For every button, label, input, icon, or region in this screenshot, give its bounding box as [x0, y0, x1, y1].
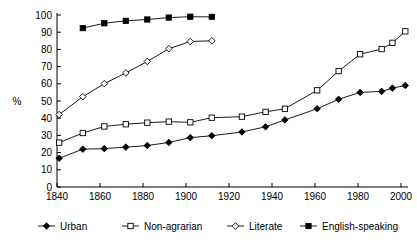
data-point-marker: [80, 130, 85, 135]
data-point-marker: [128, 223, 133, 228]
legend-item-english-speaking[interactable]: English-speaking: [300, 221, 398, 232]
y-axis-tick-label: 60: [41, 78, 53, 89]
y-axis-tick-label: 10: [41, 164, 53, 175]
data-point-marker: [166, 15, 171, 20]
data-point-marker: [357, 89, 364, 96]
data-point-marker: [378, 88, 385, 95]
data-point-marker: [166, 119, 171, 124]
x-axis-tick-label: 1860: [89, 191, 112, 202]
x-axis-tick-label: 1880: [132, 191, 155, 202]
data-point-marker: [262, 124, 269, 131]
x-axis-tick-label: 2000: [390, 191, 413, 202]
data-point-marker: [187, 38, 194, 45]
x-axis-tick-label: 1840: [46, 191, 69, 202]
data-point-marker: [145, 17, 150, 22]
data-point-marker: [43, 223, 50, 230]
x-axis: 184018601880190019201940196019802000: [46, 183, 413, 202]
y-axis-tick-label: 70: [41, 61, 53, 72]
y-axis-label: %: [13, 96, 22, 107]
data-point-marker: [123, 18, 128, 23]
y-axis-tick-label: 40: [41, 113, 53, 124]
data-point-marker: [239, 114, 244, 119]
legend-item-non-agrarian[interactable]: Non-agrarian: [122, 221, 202, 232]
legend-item-label: Non-agrarian: [144, 221, 202, 232]
data-point-marker: [263, 109, 268, 114]
series-literate: [56, 38, 215, 118]
data-point-marker: [187, 134, 194, 141]
y-axis: 0102030405060708090100: [35, 10, 61, 193]
data-point-marker: [188, 14, 193, 19]
series-english-speaking: [80, 14, 214, 31]
data-point-marker: [101, 145, 108, 152]
data-point-marker: [232, 223, 239, 230]
data-point-marker: [209, 115, 214, 120]
data-point-marker: [403, 29, 408, 34]
data-point-marker: [282, 106, 287, 111]
legend-item-urban[interactable]: Urban: [38, 221, 87, 232]
data-point-marker: [282, 117, 289, 124]
data-point-marker: [102, 124, 107, 129]
data-point-marker: [314, 88, 319, 93]
data-point-marker: [56, 140, 61, 145]
legend-item-label: English-speaking: [322, 221, 398, 232]
series-layer: [56, 14, 409, 162]
data-point-marker: [390, 40, 395, 45]
data-point-marker: [166, 139, 173, 146]
data-point-marker: [144, 142, 151, 149]
data-point-marker: [144, 58, 151, 65]
y-axis-tick-label: 100: [35, 10, 52, 21]
data-point-marker: [335, 96, 342, 103]
data-point-marker: [336, 68, 341, 73]
data-point-marker: [357, 52, 362, 57]
data-point-marker: [102, 21, 107, 26]
x-axis-tick-label: 1900: [175, 191, 198, 202]
x-axis-tick-label: 1980: [347, 191, 370, 202]
data-point-marker: [145, 120, 150, 125]
data-point-marker: [209, 38, 216, 45]
y-axis-tick-label: 80: [41, 44, 53, 55]
x-axis-tick-label: 1960: [304, 191, 327, 202]
data-point-marker: [239, 129, 246, 136]
data-point-marker: [379, 46, 384, 51]
data-point-marker: [123, 122, 128, 127]
series-urban: [56, 82, 409, 161]
chart-legend: UrbanNon-agrarianLiterateEnglish-speakin…: [38, 221, 398, 232]
chart-canvas: 0102030405060708090100 18401860188019001…: [0, 0, 417, 243]
data-point-marker: [306, 223, 311, 228]
series-polyline: [59, 31, 405, 142]
series-polyline: [59, 86, 405, 159]
x-axis-tick-label: 1920: [218, 191, 241, 202]
y-axis-title: %: [13, 96, 22, 107]
data-point-marker: [389, 85, 396, 92]
y-axis-tick-label: 50: [41, 96, 53, 107]
legend-item-literate[interactable]: Literate: [227, 221, 283, 232]
data-point-marker: [123, 70, 130, 77]
data-point-marker: [402, 82, 409, 89]
data-point-marker: [80, 25, 85, 30]
series-non-agrarian: [56, 29, 408, 146]
y-axis-tick-label: 30: [41, 130, 53, 141]
y-axis-tick-label: 90: [41, 27, 53, 38]
data-point-marker: [80, 146, 87, 153]
legend-item-label: Literate: [249, 221, 283, 232]
y-axis-tick-label: 20: [41, 147, 53, 158]
data-point-marker: [101, 80, 108, 87]
data-point-marker: [209, 132, 216, 139]
line-chart: 0102030405060708090100 18401860188019001…: [0, 0, 417, 243]
x-axis-tick-label: 1940: [261, 191, 284, 202]
data-point-marker: [166, 45, 173, 52]
legend-item-label: Urban: [60, 221, 87, 232]
series-polyline: [59, 41, 212, 115]
data-point-marker: [123, 144, 130, 151]
data-point-marker: [209, 14, 214, 19]
data-point-marker: [314, 105, 321, 112]
data-point-marker: [188, 120, 193, 125]
